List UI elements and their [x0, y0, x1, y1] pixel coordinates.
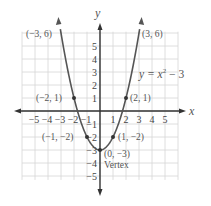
y-axis-bottom-arrow-icon: [98, 189, 103, 196]
x-tick-label: 2: [124, 114, 129, 125]
y-tick-label: 1: [92, 93, 97, 104]
data-point-marker: [111, 135, 115, 139]
x-axis-left-arrow-icon: [14, 109, 21, 114]
equation-tail: − 3: [166, 68, 184, 80]
x-tick-label: 5: [163, 114, 168, 125]
x-tick-label: −2: [68, 114, 79, 125]
y-tick-label: −5: [86, 171, 97, 182]
equation-label: y = x2 − 3: [138, 67, 184, 81]
axes: [14, 23, 186, 196]
vertex-label: Vertex: [104, 160, 129, 170]
curve-left-arrow-icon: [56, 17, 62, 25]
y-axis-label: y: [94, 6, 101, 20]
x-axis-right-arrow-icon: [179, 109, 186, 114]
x-tick-label: −5: [29, 114, 40, 125]
x-tick-label: 1: [111, 114, 116, 125]
point-label-neg3-6: (−3, 6): [26, 29, 52, 40]
x-tick-label: 3: [137, 114, 142, 125]
point-label-2-1: (2, 1): [130, 93, 151, 104]
x-tick-label: −3: [55, 114, 66, 125]
y-tick-label: 3: [92, 67, 97, 78]
data-point-marker: [98, 148, 102, 152]
point-label-neg1-neg2: (−1, −2): [42, 132, 73, 143]
point-label-neg2-1: (−2, 1): [36, 93, 62, 104]
equation-base: y = x: [138, 68, 164, 81]
y-tick-label: −1: [86, 119, 97, 130]
data-point-marker: [124, 96, 128, 100]
point-label-3-6: (3, 6): [142, 29, 163, 40]
x-tick-label: −4: [42, 114, 53, 125]
y-tick-label: 4: [92, 54, 97, 65]
curve-right-arrow-icon: [139, 17, 145, 25]
y-tick-label: 2: [92, 80, 97, 91]
x-axis-label: x: [188, 104, 195, 118]
data-point-marker: [85, 135, 89, 139]
y-tick-label: 5: [92, 41, 97, 52]
parabola-chart: −5−4−3−2−11234554321−1−2−3−4−5 x y y = x…: [0, 0, 211, 206]
point-label-1-neg2: (1, −2): [118, 132, 144, 143]
data-point-marker: [72, 96, 76, 100]
point-label-vertex: (0, −3): [104, 149, 130, 160]
y-tick-label: −4: [86, 158, 97, 169]
y-tick-label: −3: [86, 145, 97, 156]
y-axis-top-arrow-icon: [98, 23, 103, 30]
x-tick-label: 4: [150, 114, 155, 125]
